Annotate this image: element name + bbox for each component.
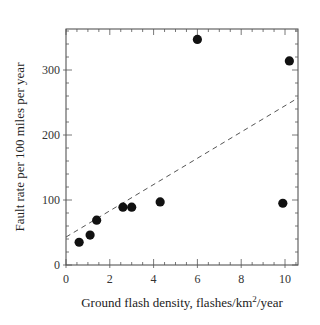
y-axis-title: Fault rate per 100 miles per year [12, 62, 27, 232]
x-tick-label: 6 [194, 272, 200, 286]
data-point [278, 199, 287, 208]
data-point [193, 35, 202, 44]
data-point [75, 238, 84, 247]
x-tick-label: 10 [279, 272, 291, 286]
linear-fit-line [66, 98, 298, 237]
y-tick-label: 100 [42, 193, 60, 207]
scatter-chart: 02468100100200300 Fault rate per 100 mil… [0, 0, 320, 325]
data-points [75, 35, 294, 247]
data-point [285, 56, 294, 65]
x-tick-label: 0 [63, 272, 69, 286]
trend-line [66, 98, 298, 237]
x-axis-title: Ground flash density, flashes/km2/year [81, 294, 283, 310]
y-tick-label: 300 [42, 63, 60, 77]
data-point [92, 216, 101, 225]
x-axis-title-main: Ground flash density, flashes/km [81, 295, 252, 310]
minor-ticks [66, 29, 298, 265]
data-point [156, 197, 165, 206]
data-point [85, 231, 94, 240]
tick-labels: 02468100100200300 [42, 63, 291, 286]
y-tick-label: 0 [54, 258, 60, 272]
x-tick-label: 4 [151, 272, 157, 286]
x-tick-label: 8 [238, 272, 244, 286]
data-point [127, 203, 136, 212]
data-point [118, 203, 127, 212]
major-ticks [63, 29, 298, 268]
plot-frame [66, 29, 298, 265]
y-tick-label: 200 [42, 128, 60, 142]
x-axis-title-tail: /year [257, 295, 284, 310]
x-tick-label: 2 [107, 272, 113, 286]
